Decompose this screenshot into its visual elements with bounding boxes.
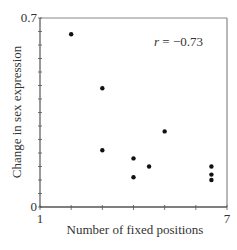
x-axis-min-label: 1: [37, 211, 44, 226]
scatter-chart: 0.7 0 1 7 Number of fixed positions Chan…: [0, 0, 237, 250]
data-point: [147, 164, 151, 168]
data-points: [69, 32, 214, 182]
correlation-annotation: r = −0.73: [154, 34, 203, 49]
data-point: [209, 172, 213, 176]
y-axis-max-label: 0.7: [21, 10, 38, 25]
data-point: [100, 86, 104, 90]
data-point: [131, 156, 135, 160]
data-point: [131, 175, 135, 179]
data-point: [209, 178, 213, 182]
y-axis-title: Change in sex expression: [9, 45, 24, 178]
x-axis-max-label: 7: [224, 211, 231, 226]
data-point: [162, 129, 166, 133]
data-point: [69, 32, 73, 36]
data-point: [209, 164, 213, 168]
x-axis-title: Number of fixed positions: [67, 222, 204, 237]
data-point: [100, 148, 104, 152]
